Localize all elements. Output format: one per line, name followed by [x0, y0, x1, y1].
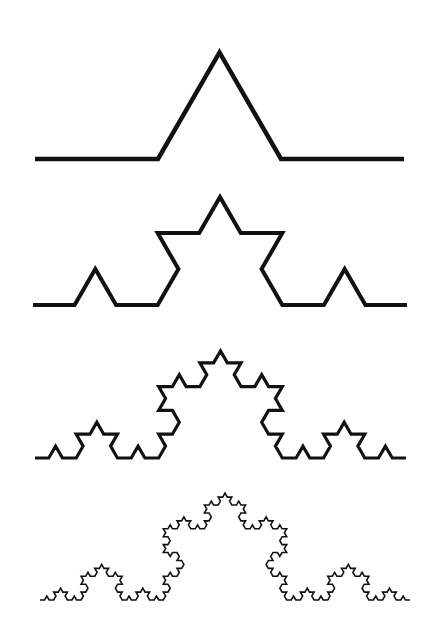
koch-curve-iteration-3 — [35, 351, 406, 458]
koch-curve-iteration-1 — [35, 52, 404, 159]
koch-curve-figure — [0, 0, 438, 642]
koch-curve-iteration-2 — [33, 197, 407, 305]
koch-curve-iteration-4 — [40, 493, 410, 600]
koch-curves-group — [33, 52, 410, 600]
